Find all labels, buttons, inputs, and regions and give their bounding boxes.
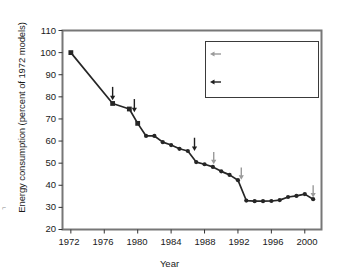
annotation-arrows [110, 87, 316, 198]
legend-box [206, 42, 319, 98]
chart-figure: Energy consumption (percent of 1972 mode… [0, 0, 339, 277]
plot-area [0, 0, 339, 277]
